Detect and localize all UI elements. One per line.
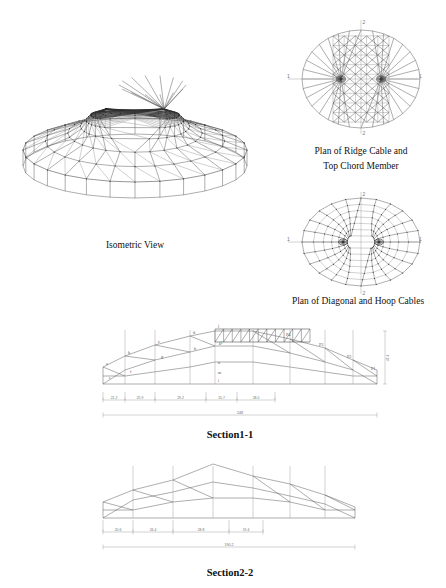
plan-joint (367, 260, 368, 261)
iso-diagonal-cable (135, 152, 155, 166)
plan-joint (369, 254, 370, 255)
section1-web-diagonal (155, 345, 190, 352)
iso-joint (181, 116, 182, 117)
iso-joint (167, 118, 168, 119)
section1-top-chord (103, 331, 377, 370)
iso-joint (179, 114, 180, 115)
iso-mast-cable (122, 89, 164, 109)
iso-joint (54, 152, 55, 153)
iso-joint (25, 157, 26, 158)
plan-joint (375, 250, 376, 251)
iso-joint (176, 117, 177, 118)
plan-joint (347, 238, 348, 239)
section1-web-diagonal (325, 348, 353, 370)
iso-joint (81, 123, 82, 124)
iso-joint (47, 130, 48, 131)
plan-joint (397, 250, 398, 251)
iso-joint (174, 125, 175, 126)
plan-joint (373, 211, 374, 212)
iso-joint (45, 140, 46, 141)
iso-joint (174, 115, 175, 116)
iso-joint (86, 178, 87, 179)
iso-joint (178, 124, 179, 125)
plan-joint (336, 209, 337, 210)
iso-joint (103, 114, 104, 115)
axis-label-2-bottom: 2 (363, 130, 366, 136)
plan-joint (395, 268, 396, 269)
plan-joint (372, 217, 373, 218)
iso-joint (97, 118, 98, 119)
plan-ridge-svg: 1122 (286, 18, 436, 140)
plan-joint (378, 255, 379, 256)
plan-joint (319, 260, 320, 261)
section2-dim-text-0: 20.6 (115, 528, 122, 532)
iso-joint (202, 132, 203, 133)
iso-joint (88, 123, 89, 124)
section2-web-diagonal (325, 504, 355, 518)
plan-joint (350, 236, 351, 237)
plan-joint (348, 252, 349, 253)
plan-joint (371, 223, 372, 224)
iso-joint (158, 138, 159, 139)
section1-web-diagonal (353, 370, 377, 384)
plan-diagonal-cable (310, 220, 348, 239)
iso-diagonal-cable (82, 132, 84, 145)
plan-joint (331, 203, 332, 204)
iso-joint (149, 138, 150, 139)
plan-joint (315, 232, 316, 233)
plan-joint (346, 225, 347, 226)
plan-joint (381, 214, 382, 215)
iso-diagonal-cable (186, 132, 201, 138)
iso-diagonal-cable (26, 130, 54, 143)
section2-svg: 20.626.428.819.4190.2 (85, 452, 395, 552)
section1-view: abcdefghijklmnP4P3P2P147.421.225.929.215… (85, 312, 395, 424)
iso-diagonal-cable (115, 166, 135, 182)
plan-joint (372, 266, 373, 267)
plan-joint (407, 251, 408, 252)
plan-joint (347, 240, 348, 241)
iso-joint (25, 142, 26, 143)
section1-node-label-e: e (109, 375, 111, 380)
iso-joint (183, 119, 184, 120)
plan-joint (383, 237, 384, 238)
plan-joint (373, 246, 374, 247)
iso-joint (190, 160, 191, 161)
plan-joint (343, 255, 344, 256)
plan-joint (344, 238, 345, 239)
iso-joint (134, 115, 135, 116)
plan-joint (347, 243, 348, 244)
section1-lower-chord (103, 362, 377, 376)
plan-joint (407, 232, 408, 233)
plan-joint (377, 235, 378, 236)
plan-joint (349, 236, 350, 237)
plan-joint (402, 273, 403, 274)
iso-joint (95, 113, 96, 114)
plan-joint (378, 245, 379, 246)
plan-joint (346, 258, 347, 259)
iso-joint (224, 140, 225, 141)
iso-joint (215, 129, 216, 130)
plan-joint (349, 217, 350, 218)
plan-joint (395, 215, 396, 216)
iso-joint (54, 129, 55, 130)
iso-joint (246, 149, 247, 150)
iso-joint (47, 169, 48, 170)
plan-joint (378, 228, 379, 229)
section1-dim-text-0: 21.2 (111, 396, 118, 400)
iso-joint (164, 115, 165, 116)
section2-overall-dim-text: 190.2 (225, 543, 234, 547)
iso-diagonal-cable (174, 164, 205, 175)
axis-label-1-left: 1 (287, 73, 290, 79)
iso-joint (47, 146, 48, 147)
iso-joint (169, 118, 170, 119)
section1-node-label-m: m (218, 370, 222, 375)
plan-joint (339, 246, 340, 247)
iso-diagonal-cable (112, 138, 135, 152)
plan-joint (417, 253, 418, 254)
iso-diagonal-cable (106, 150, 115, 166)
iso-joint (99, 111, 100, 112)
iso-joint (235, 163, 236, 164)
section1-node-label-n: n (218, 360, 221, 365)
iso-joint (134, 117, 135, 118)
plan-joint (372, 247, 373, 248)
